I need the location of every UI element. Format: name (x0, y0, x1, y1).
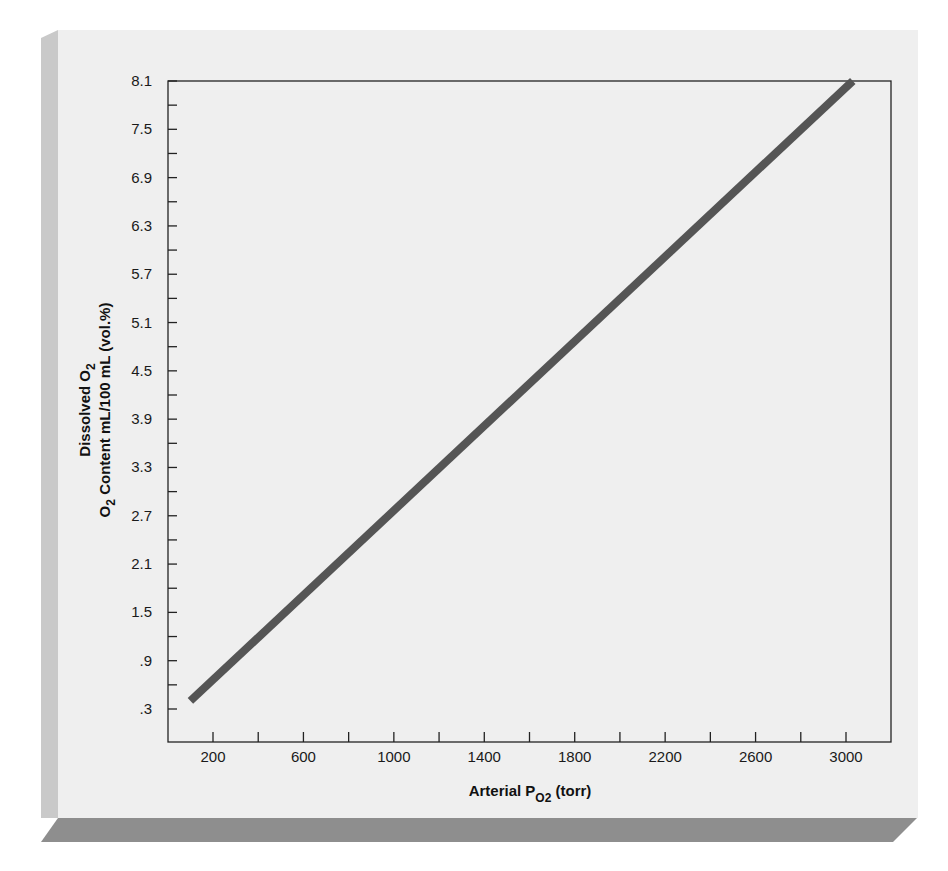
y-tick-label: .9 (139, 652, 152, 669)
y-axis-ticks: 8.17.56.96.35.75.14.53.93.32.72.11.5.9.3 (131, 72, 177, 717)
x-tick-label: 200 (200, 748, 225, 765)
x-tick-label: 2200 (648, 748, 681, 765)
y-tick-label: 5.7 (131, 265, 152, 282)
x-tick-label: 600 (291, 748, 316, 765)
y-tick-label: 4.5 (131, 362, 152, 379)
y-tick-label: 3.3 (131, 458, 152, 475)
y-tick-label: 2.1 (131, 555, 152, 572)
y-tick-label: .3 (139, 700, 152, 717)
chart: 8.17.56.96.35.75.14.53.93.32.72.11.5.9.3… (0, 0, 948, 871)
y-tick-label: 8.1 (131, 72, 152, 89)
y-tick-label: 6.9 (131, 169, 152, 186)
x-tick-label: 2600 (739, 748, 772, 765)
data-line (190, 81, 852, 701)
x-tick-label: 1400 (468, 748, 501, 765)
y-tick-label: 5.1 (131, 314, 152, 331)
y-tick-label: 2.7 (131, 507, 152, 524)
x-axis-title: Arterial PO2 (torr) (469, 782, 592, 805)
y-axis-title: Dissolved O2 O2 Content mL/100 mL (vol.%… (76, 303, 118, 518)
y-tick-label: 7.5 (131, 120, 152, 137)
x-axis-ticks: 200600100014001800220026003000 (200, 732, 862, 765)
x-tick-label: 1800 (558, 748, 591, 765)
y-tick-label: 1.5 (131, 603, 152, 620)
y-tick-label: 3.9 (131, 410, 152, 427)
y-tick-label: 6.3 (131, 217, 152, 234)
plot-frame (168, 81, 891, 742)
x-tick-label: 1000 (377, 748, 410, 765)
y-axis-title-line2: O2 Content mL/100 mL (vol.%) (96, 303, 118, 518)
x-tick-label: 3000 (829, 748, 862, 765)
y-axis-title-line1: Dissolved O2 (76, 363, 98, 457)
